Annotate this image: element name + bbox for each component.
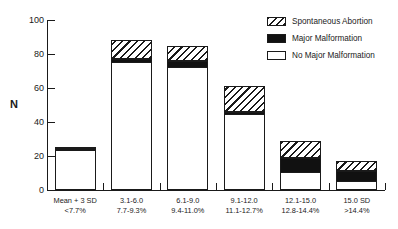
bar-segment-spontaneous-abortion xyxy=(336,161,377,171)
chart-legend: Spontaneous AbortionMajor MalformationNo… xyxy=(267,14,395,65)
bar-segment-spontaneous-abortion xyxy=(167,46,208,61)
legend-item: Spontaneous Abortion xyxy=(267,14,395,28)
bar-segment-major-malformation xyxy=(280,158,321,173)
bar-segment-no-major-malformation xyxy=(167,68,208,190)
x-axis-line xyxy=(47,190,385,191)
y-axis-tick xyxy=(48,190,55,191)
bar-segment-major-malformation xyxy=(336,171,377,181)
y-axis-tick-label: 60 xyxy=(20,84,44,93)
y-axis-tick-label: 0 xyxy=(20,186,44,195)
legend-label: Major Malformation xyxy=(292,34,362,43)
y-axis-tick-label: 40 xyxy=(20,118,44,127)
bar-stack xyxy=(280,141,321,190)
legend-item: No Major Malformation xyxy=(267,48,395,62)
bar-segment-no-major-malformation xyxy=(111,63,152,191)
legend-swatch-black xyxy=(267,34,286,43)
bar-stack xyxy=(167,46,208,190)
x-axis-tick xyxy=(385,183,386,190)
legend-label: No Major Malformation xyxy=(292,51,375,60)
bar-segment-spontaneous-abortion xyxy=(111,40,152,59)
bar-segment-spontaneous-abortion xyxy=(224,86,265,112)
bar-stack xyxy=(224,86,265,190)
bar-segment-no-major-malformation xyxy=(55,151,96,190)
legend-swatch-hatched xyxy=(267,17,286,26)
bar-segment-spontaneous-abortion xyxy=(280,141,321,158)
bar-segment-no-major-malformation xyxy=(336,182,377,191)
bar-segment-major-malformation xyxy=(167,61,208,68)
legend-swatch-white xyxy=(267,51,286,60)
legend-item: Major Malformation xyxy=(267,31,395,45)
bar-segment-no-major-malformation xyxy=(280,173,321,190)
y-axis-tick-label: 20 xyxy=(20,152,44,161)
category-label-line1: 15.0 SD xyxy=(320,196,394,206)
y-axis-tick-label: 80 xyxy=(20,50,44,59)
stacked-bar-chart: N 020406080100 Mean + 3 SD<7.7%3.1-6.07.… xyxy=(0,0,398,229)
y-axis-tick-label: 100 xyxy=(20,16,44,25)
x-axis-category-label: 15.0 SD>14.4% xyxy=(320,196,394,215)
y-axis-title: N xyxy=(10,98,18,110)
category-label-line2: >14.4% xyxy=(320,206,394,216)
bar-stack xyxy=(55,147,96,190)
bar-stack xyxy=(336,161,377,190)
bar-segment-no-major-malformation xyxy=(224,115,265,190)
legend-label: Spontaneous Abortion xyxy=(292,17,373,26)
bar-stack xyxy=(111,40,152,190)
